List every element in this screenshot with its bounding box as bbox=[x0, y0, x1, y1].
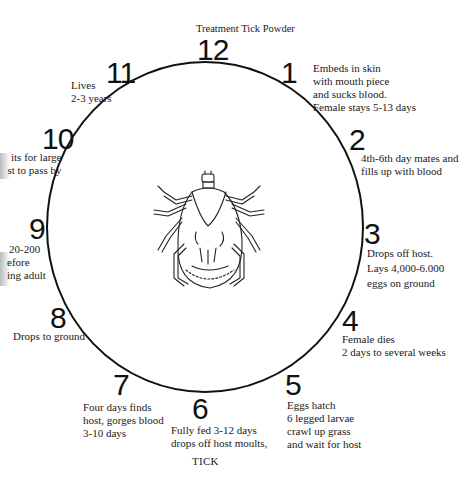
stage-number-8: 8 bbox=[50, 303, 66, 333]
stage-9-line: 20-200 bbox=[7, 243, 46, 256]
stage-11-line: 2-3 years bbox=[71, 92, 112, 105]
stage-10-line: st to pass by bbox=[7, 164, 62, 177]
stage-number-2: 2 bbox=[349, 125, 365, 155]
stage-number-7: 7 bbox=[113, 370, 129, 400]
tick-illustration-icon bbox=[148, 170, 273, 305]
stage-2-line: 4th-6th day mates and bbox=[361, 152, 458, 165]
stage-3-line: Drops off host. bbox=[367, 246, 444, 261]
stage-10-line: its for large bbox=[7, 151, 62, 164]
stage-number-4: 4 bbox=[342, 306, 358, 336]
stage-5-line: Eggs hatch bbox=[287, 399, 361, 412]
stage-5-line: crawl up grass bbox=[287, 425, 361, 438]
stage-number-5: 5 bbox=[285, 370, 301, 400]
stage-1-description: Embeds in skin with mouth piece and suck… bbox=[313, 62, 416, 114]
diagram-caption: TICK bbox=[192, 455, 219, 467]
stage-6-line: Fully fed 3-12 days bbox=[171, 424, 267, 437]
stage-5-description: Eggs hatch 6 legged larvae crawl up gras… bbox=[287, 399, 361, 451]
stage-number-3: 3 bbox=[364, 219, 380, 249]
stage-1-line: with mouth piece bbox=[313, 75, 416, 88]
stage-1-line: Female stays 5-13 days bbox=[313, 101, 416, 114]
stage-9-line: efore bbox=[7, 256, 46, 269]
tick-life-cycle-diagram: Treatment Tick Powder 12 1 Embeds in ski… bbox=[0, 0, 468, 484]
stage-8-description: Drops to ground bbox=[13, 330, 85, 343]
stage-8-line: Drops to ground bbox=[13, 330, 85, 343]
stage-11-description: Lives 2-3 years bbox=[71, 79, 112, 105]
stage-number-1: 1 bbox=[281, 58, 297, 88]
stage-5-line: and wait for host bbox=[287, 438, 361, 451]
stage-number-6: 6 bbox=[192, 394, 208, 424]
stage-7-line: 3-10 days bbox=[83, 427, 164, 440]
stage-11-line: Lives bbox=[71, 79, 112, 92]
stage-2-line: fills up with blood bbox=[361, 165, 458, 178]
stage-number-12: 12 bbox=[197, 35, 228, 65]
stage-10-description: its for large st to pass by bbox=[7, 151, 62, 177]
stage-7-line: host, gorges blood bbox=[83, 414, 164, 427]
stage-3-line: Lays 4,000-6.000 bbox=[367, 261, 444, 276]
stage-4-line: Female dies bbox=[342, 333, 446, 346]
stage-9-line: ing adult bbox=[7, 269, 46, 282]
stage-number-9: 9 bbox=[29, 214, 45, 244]
stage-7-description: Four days finds host, gorges blood 3-10 … bbox=[83, 401, 164, 440]
stage-1-line: and sucks blood. bbox=[313, 88, 416, 101]
stage-7-line: Four days finds bbox=[83, 401, 164, 414]
stage-6-line: drops off host moults, bbox=[171, 437, 267, 450]
stage-4-description: Female dies 2 days to several weeks bbox=[342, 333, 446, 359]
stage-5-line: 6 legged larvae bbox=[287, 412, 361, 425]
stage-3-description: Drops off host. Lays 4,000-6.000 eggs on… bbox=[367, 246, 444, 291]
stage-number-10: 10 bbox=[42, 124, 73, 154]
stage-9-description: 20-200 efore ing adult bbox=[7, 243, 46, 282]
stage-2-description: 4th-6th day mates and fills up with bloo… bbox=[361, 152, 458, 178]
stage-4-line: 2 days to several weeks bbox=[342, 346, 446, 359]
stage-3-line: eggs on ground bbox=[367, 276, 444, 291]
stage-6-description: Fully fed 3-12 days drops off host moult… bbox=[171, 424, 267, 450]
stage-1-line: Embeds in skin bbox=[313, 62, 416, 75]
